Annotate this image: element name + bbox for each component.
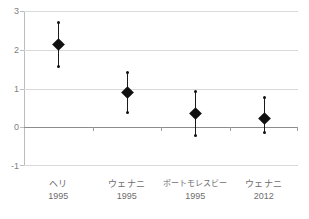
- data-point-group-4: [264, 11, 265, 166]
- error-bar-cap-high-2: [126, 71, 129, 74]
- error-bar-cap-high-1: [57, 21, 60, 24]
- marker-3: [189, 107, 202, 120]
- data-point-group-2: [127, 11, 128, 166]
- y-tick-label-3: 3: [2, 7, 19, 16]
- x-axis-label-2: ウェナニ 1995: [92, 178, 162, 203]
- error-bar-cap-low-3: [194, 134, 197, 137]
- error-bar-cap-low-2: [126, 111, 129, 114]
- x-tick-mark-1: [93, 127, 94, 131]
- x-axis-label-4-name: ウェナニ: [229, 178, 299, 190]
- error-bar-cap-high-3: [194, 90, 197, 93]
- plot-area: [24, 11, 298, 166]
- x-tick-mark-4: [297, 127, 298, 131]
- x-axis-label-1-name: ヘリ: [23, 178, 93, 190]
- y-tick-mark-3: [20, 11, 24, 12]
- data-point-group-1: [58, 11, 59, 166]
- y-tick-label-neg1: -1: [2, 162, 19, 171]
- gridline-2: [24, 50, 298, 51]
- x-axis-label-1: ヘリ 1995: [23, 178, 93, 203]
- y-tick-mark-0: [20, 127, 24, 128]
- gridline-neg1: [24, 165, 298, 166]
- x-axis-label-3-name: ポートモレスビー: [157, 178, 233, 190]
- x-axis-label-2-name: ウェナニ: [92, 178, 162, 190]
- y-tick-mark-neg1: [20, 165, 24, 166]
- error-bar-cap-high-4: [263, 96, 266, 99]
- x-tick-mark-2: [161, 127, 162, 131]
- marker-4: [258, 113, 271, 126]
- y-tick-label-0: 0: [2, 123, 19, 132]
- marker-1: [52, 38, 65, 51]
- error-bar-cap-low-4: [263, 131, 266, 134]
- x-axis-labels: ヘリ 1995 ウェナニ 1995 ポートモレスビー 1995 ウェナニ 201…: [24, 178, 298, 218]
- gridline-3: [24, 11, 298, 12]
- data-point-group-3: [195, 11, 196, 166]
- y-tick-label-2: 2: [2, 46, 19, 55]
- y-tick-label-1: 1: [2, 85, 19, 94]
- gridline-1: [24, 89, 298, 90]
- y-tick-mark-1: [20, 89, 24, 90]
- x-axis-label-4: ウェナニ 2012: [229, 178, 299, 203]
- y-tick-mark-2: [20, 50, 24, 51]
- x-axis-label-1-year: 1995: [23, 190, 93, 203]
- x-axis-label-3: ポートモレスビー 1995: [157, 178, 233, 203]
- error-bar-cap-low-1: [57, 65, 60, 68]
- x-axis-label-3-year: 1995: [157, 190, 233, 203]
- x-tick-mark-3: [230, 127, 231, 131]
- x-axis-label-4-year: 2012: [229, 190, 299, 203]
- chart-container: 3 2 1 0 -1: [0, 0, 309, 219]
- x-axis-label-2-year: 1995: [92, 190, 162, 203]
